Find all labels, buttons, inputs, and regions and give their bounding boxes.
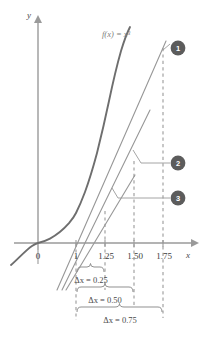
badge-3-label: 3 [176,194,180,203]
brace-delta-075-label: Δx = 0.75 [103,315,137,325]
badge-2[interactable]: 2 [171,156,186,171]
brace-delta-025-label: Δx = 0.25 [74,275,108,285]
secant-lines-figure: y x f(x) = x³ [0,0,207,342]
brace-delta-050-label: Δx = 0.50 [88,295,122,305]
function-label: f(x) = x³ [102,29,131,39]
badge-leader-lines [112,44,170,198]
badge-1[interactable]: 1 [171,41,186,56]
x-tick-label-1: 1 [74,251,79,261]
badge-3[interactable]: 3 [171,191,186,206]
x-tick-label-0: 0 [36,251,41,261]
x-tick-label-175: 1.75 [156,251,172,261]
axes [14,22,192,250]
cubic-curve [11,27,130,265]
x-axis-label: x [185,250,190,260]
badge-2-label: 2 [176,159,180,168]
leader-line-badge-2 [133,150,170,163]
brace-delta-050: Δx = 0.50 [77,284,133,306]
badge-1-label: 1 [176,44,180,53]
secant-line-1-to-150 [62,110,150,290]
brace-delta-075: Δx = 0.75 [77,304,162,326]
x-tick-label-150: 1.50 [127,251,143,261]
leader-line-badge-3 [112,188,170,198]
y-axis-label: y [26,10,31,20]
x-tick-label-125: 1.25 [98,251,114,261]
brace-delta-025: Δx = 0.25 [74,264,108,286]
secant-line-1-to-125 [66,175,135,290]
